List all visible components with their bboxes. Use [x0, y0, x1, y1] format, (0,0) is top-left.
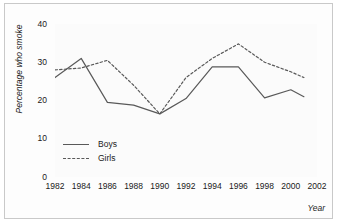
legend-item-girls: Girls	[63, 151, 117, 165]
x-axis-tick-label: 2002	[300, 181, 334, 191]
y-axis-tick-label: 30	[25, 58, 47, 67]
legend-label-girls: Girls	[98, 153, 115, 163]
y-axis-title: Percentage who smoke	[14, 14, 24, 124]
legend-swatch-girls-icon	[63, 158, 89, 159]
x-axis-title: Year	[308, 203, 326, 213]
y-axis-tick-label: 20	[25, 96, 47, 105]
y-axis-tick-label: 40	[25, 20, 47, 29]
legend-swatch-boys-icon	[63, 144, 89, 145]
figure: Percentage who smoke Year 010203040 1982…	[0, 0, 337, 223]
legend-item-boys: Boys	[63, 137, 117, 151]
series-line-girls	[55, 44, 304, 114]
legend-label-boys: Boys	[98, 139, 117, 149]
y-axis-tick-label: 10	[25, 134, 47, 143]
legend: Boys Girls	[63, 137, 117, 165]
